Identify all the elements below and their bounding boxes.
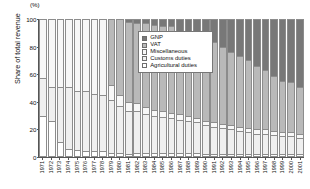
x-tick-mark-1998: [274, 158, 275, 160]
x-tick-1972: 1972: [47, 158, 56, 189]
x-tick-mark-1996: [257, 158, 258, 160]
x-tick-mark-1975: [77, 158, 78, 160]
x-tick-label-1984: 1984: [151, 161, 157, 173]
segment-customs-duties: [236, 131, 244, 154]
segment-vat: [245, 60, 253, 128]
legend-swatch-icon: [142, 63, 147, 68]
x-tick-label-1971: 1971: [39, 161, 45, 173]
segment-agricultural-duties: [99, 151, 107, 157]
segment-vat: [296, 87, 304, 134]
bar-1993: [227, 19, 236, 157]
x-tick-label-1999: 1999: [279, 161, 285, 173]
bar-1996: [253, 19, 262, 157]
x-tick-1980: 1980: [115, 158, 124, 189]
segment-agricultural-duties: [125, 154, 133, 157]
segment-vat: [116, 19, 124, 95]
x-tick-mark-1986: [171, 158, 172, 160]
segment-miscellaneous: [108, 85, 116, 100]
x-tick-label-1974: 1974: [65, 161, 71, 173]
x-tick-label-1986: 1986: [168, 161, 174, 173]
segment-vat: [270, 76, 278, 131]
segment-vat: [227, 52, 235, 125]
segment-customs-duties: [65, 87, 73, 149]
x-tick-mark-1977: [94, 158, 95, 160]
x-tick-mark-1994: [240, 158, 241, 160]
x-tick-label-1977: 1977: [91, 161, 97, 173]
segment-customs-duties: [159, 117, 167, 153]
segment-agricultural-duties: [176, 153, 184, 157]
segment-gnp: [245, 19, 253, 60]
bar-1974: [65, 19, 74, 157]
bar-1977: [90, 19, 99, 157]
x-tick-1977: 1977: [89, 158, 98, 189]
segment-miscellaneous: [74, 19, 82, 91]
legend-label: Customs duties: [150, 56, 191, 62]
segment-gnp: [253, 19, 261, 66]
segment-customs-duties: [185, 121, 193, 153]
segment-agricultural-duties: [91, 151, 99, 157]
y-tick-label-40: 40: [30, 98, 37, 105]
segment-agricultural-duties: [116, 153, 124, 157]
segment-miscellaneous: [65, 19, 73, 87]
x-tick-mark-1983: [145, 158, 146, 160]
x-tick-label-1991: 1991: [211, 161, 217, 173]
segment-gnp: [168, 19, 176, 26]
legend-swatch-icon: [142, 36, 147, 41]
bar-1975: [73, 19, 82, 157]
segment-customs-duties: [245, 132, 253, 154]
segment-agricultural-duties: [57, 142, 65, 157]
x-tick-mark-1990: [205, 158, 206, 160]
segment-gnp: [279, 19, 287, 81]
x-tick-1974: 1974: [64, 158, 73, 189]
y-tick-mark-60: [37, 74, 39, 75]
segment-customs-duties: [108, 100, 116, 152]
segment-agricultural-duties: [270, 154, 278, 157]
segment-agricultural-duties: [262, 154, 270, 157]
segment-customs-duties: [82, 91, 90, 152]
x-tick-2000: 2000: [287, 158, 296, 189]
segment-customs-duties: [253, 134, 261, 155]
segment-agricultural-duties: [236, 154, 244, 157]
x-tick-mark-1971: [42, 158, 43, 160]
segment-vat: [279, 81, 287, 132]
bar-1997: [261, 19, 270, 157]
x-tick-label-1973: 1973: [56, 161, 62, 173]
segment-agricultural-duties: [287, 154, 295, 157]
segment-agricultural-duties: [168, 153, 176, 157]
bar-1976: [82, 19, 91, 157]
segment-agricultural-duties: [245, 154, 253, 157]
legend-item-customs-duties: Customs duties: [142, 56, 209, 62]
x-tick-mark-1997: [265, 158, 266, 160]
segment-customs-duties: [287, 136, 295, 154]
x-tick-mark-1974: [68, 158, 69, 160]
legend-label: Agricultural duties: [150, 63, 197, 69]
x-tick-label-1972: 1972: [48, 161, 54, 173]
y-tick-mark-80: [37, 47, 39, 48]
segment-agricultural-duties: [142, 153, 150, 157]
bar-1973: [56, 19, 65, 157]
y-tick-label-20: 20: [30, 126, 37, 133]
y-tick-mark-20: [37, 129, 39, 130]
segment-miscellaneous: [82, 19, 90, 91]
segment-agricultural-duties: [65, 149, 73, 157]
segment-agricultural-duties: [219, 154, 227, 157]
x-tick-1996: 1996: [252, 158, 261, 189]
legend-swatch-icon: [142, 49, 147, 54]
x-tick-mark-1989: [197, 158, 198, 160]
x-tick-1998: 1998: [270, 158, 279, 189]
legend-swatch-icon: [142, 43, 147, 48]
x-tick-label-1992: 1992: [219, 161, 225, 173]
y-tick-label-60: 60: [30, 71, 37, 78]
x-tick-mark-1987: [180, 158, 181, 160]
segment-agricultural-duties: [74, 150, 82, 157]
x-tick-mark-1982: [137, 158, 138, 160]
segment-customs-duties: [125, 111, 133, 154]
x-tick-label-1979: 1979: [108, 161, 114, 173]
x-tick-label-1997: 1997: [262, 161, 268, 173]
x-tick-mark-1988: [188, 158, 189, 160]
x-tick-1986: 1986: [167, 158, 176, 189]
segment-gnp: [262, 19, 270, 70]
segment-customs-duties: [296, 138, 304, 155]
segment-miscellaneous: [57, 19, 65, 87]
x-tick-mark-1992: [222, 158, 223, 160]
